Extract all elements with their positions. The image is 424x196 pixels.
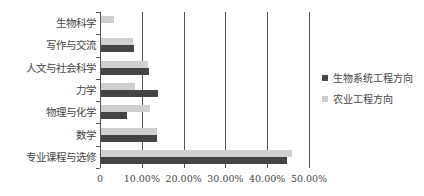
category-label: 物理与化学 bbox=[46, 106, 96, 118]
y-tick bbox=[96, 34, 100, 35]
x-tick-label: 40.00% bbox=[249, 173, 285, 184]
x-tick-label: 50.00% bbox=[291, 173, 327, 184]
bar-agri-engineering bbox=[101, 150, 292, 157]
bar-agri-engineering bbox=[101, 83, 135, 90]
bar-bio-systems bbox=[101, 68, 149, 75]
bar-agri-engineering bbox=[101, 128, 157, 135]
category-label: 人文与社会科学 bbox=[26, 62, 96, 74]
legend-label: 生物系统工程方向 bbox=[333, 70, 413, 85]
category-label: 生物科学 bbox=[56, 17, 96, 29]
x-tick-label: 0 bbox=[97, 173, 103, 184]
category-label: 写作与交流 bbox=[46, 39, 96, 51]
y-tick bbox=[96, 101, 100, 102]
gridline bbox=[225, 12, 226, 168]
bar-bio-systems bbox=[101, 45, 134, 52]
gridline bbox=[267, 12, 268, 168]
y-tick bbox=[96, 12, 100, 13]
bar-bio-systems bbox=[101, 157, 287, 164]
y-tick bbox=[96, 146, 100, 147]
legend-label: 农业工程方向 bbox=[333, 91, 393, 106]
x-tick-label: 20.00% bbox=[165, 173, 201, 184]
bar-bio-systems bbox=[101, 135, 157, 142]
bar-agri-engineering bbox=[101, 61, 148, 68]
legend-item-series-2: 农业工程方向 bbox=[322, 91, 393, 106]
y-tick bbox=[96, 57, 100, 58]
y-tick bbox=[96, 123, 100, 124]
category-label: 专业课程与选修 bbox=[26, 151, 96, 163]
gridline bbox=[184, 12, 185, 168]
bar-agri-engineering bbox=[101, 38, 133, 45]
bar-bio-systems bbox=[101, 90, 158, 97]
bar-agri-engineering bbox=[101, 16, 114, 23]
bar-chart: 生物科学写作与交流人文与社会科学力学物理与化学数学专业课程与选修 010.00%… bbox=[0, 0, 424, 196]
x-tick-label: 10.00% bbox=[124, 173, 160, 184]
bar-agri-engineering bbox=[101, 105, 150, 112]
bar-bio-systems bbox=[101, 112, 127, 119]
gridline bbox=[309, 12, 310, 168]
x-tick-label: 30.00% bbox=[207, 173, 243, 184]
legend-item-series-1: 生物系统工程方向 bbox=[322, 70, 413, 85]
y-tick bbox=[96, 168, 100, 169]
category-label: 力学 bbox=[76, 84, 96, 96]
legend-swatch-dark bbox=[322, 75, 328, 81]
legend-swatch-light bbox=[322, 96, 328, 102]
category-label: 数学 bbox=[76, 129, 96, 141]
y-tick bbox=[96, 79, 100, 80]
